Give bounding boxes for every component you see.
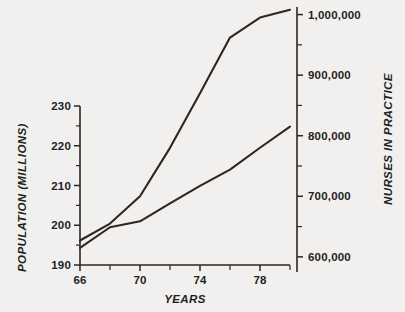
y-right-tick-label: 1,000,000 [308,9,361,21]
x-tick-label: 66 [73,274,86,286]
series-line-population [80,127,290,248]
y-right-tick-label: 800,000 [308,130,351,142]
x-axis-title: YEARS [164,293,206,305]
dual-axis-line-chart: POPULATION (MILLIONS) NURSES IN PRACTICE… [0,0,405,312]
y-right-tick-label: 700,000 [308,190,351,202]
y-left-tick-label: 200 [51,219,71,231]
chart-figure: POPULATION (MILLIONS) NURSES IN PRACTICE… [0,0,405,312]
y-left-axis-title: POPULATION (MILLIONS) [16,123,28,272]
series-line-nurses [80,10,290,241]
x-tick-label: 74 [193,274,207,286]
tick-labels-group: 190200210220230600,000700,000800,000900,… [51,9,361,286]
y-left-tick-label: 220 [51,140,71,152]
x-tick-label: 78 [253,274,267,286]
y-left-tick-label: 210 [51,180,71,192]
x-tick-label: 70 [133,274,146,286]
y-right-axis-title: NURSES IN PRACTICE [382,73,394,205]
axes-group [80,7,297,272]
y-left-tick-label: 230 [51,100,71,112]
y-left-tick-label: 190 [51,259,71,271]
y-right-tick-label: 900,000 [308,69,351,81]
series-group [80,10,290,248]
y-right-tick-label: 600,000 [308,251,351,263]
